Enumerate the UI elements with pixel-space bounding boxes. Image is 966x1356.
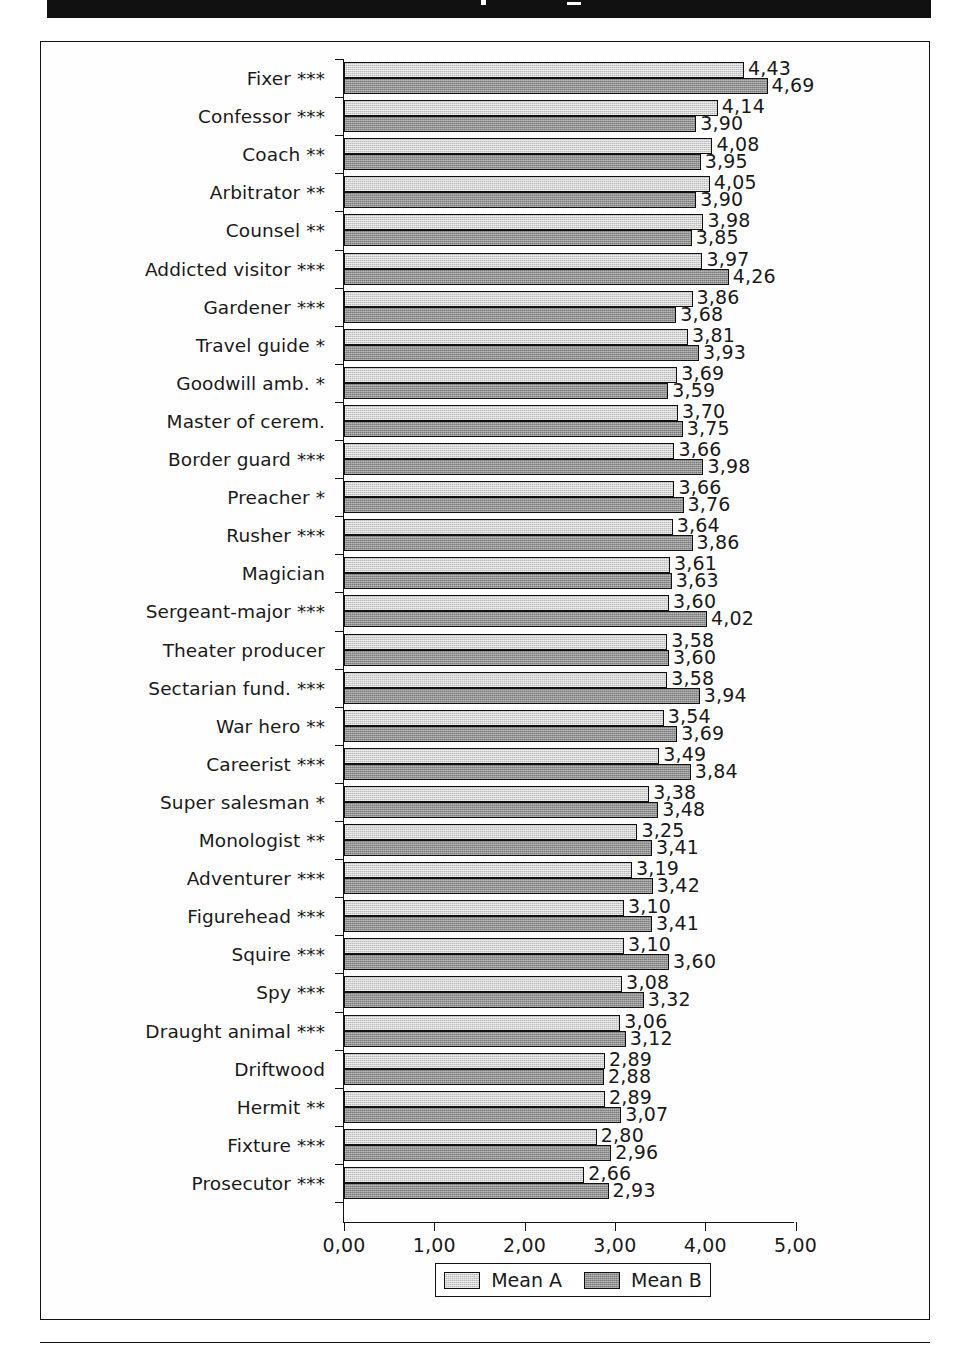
- bar-row: Addicted visitor ***3,974,26: [41, 252, 931, 290]
- category-label: Border guard ***: [35, 449, 325, 470]
- dark-gray-swatch-icon: [584, 1272, 620, 1289]
- x-axis-tick-label: 2,00: [485, 1234, 565, 1256]
- bar-mean-b: [344, 459, 703, 475]
- category-label: Spy ***: [35, 982, 325, 1003]
- bar-row: Arbitrator **4,053,90: [41, 175, 931, 213]
- bar-mean-a: [344, 253, 702, 269]
- bar-value-label: 3,59: [672, 379, 715, 401]
- category-label: Coach **: [35, 144, 325, 165]
- category-label: Preacher *: [35, 487, 325, 508]
- bar-row: Travel guide *3,813,93: [41, 328, 931, 366]
- category-label: Magician: [35, 563, 325, 584]
- bar-value-label: 3,42: [657, 874, 700, 896]
- bar-row: Border guard ***3,663,98: [41, 442, 931, 480]
- bar-value-label: 3,95: [705, 150, 748, 172]
- bar-value-label: 2,93: [613, 1179, 656, 1201]
- bar-mean-b: [344, 154, 701, 170]
- bar-row: Theater producer3,583,60: [41, 633, 931, 671]
- bar-value-label: 3,75: [687, 417, 730, 439]
- bar-value-label: 3,94: [704, 684, 747, 706]
- bar-value-label: 4,26: [733, 265, 776, 287]
- category-label: Goodwill amb. *: [35, 373, 325, 394]
- bar-mean-a: [344, 329, 688, 345]
- category-label: Fixture ***: [35, 1135, 325, 1156]
- bar-mean-b: [344, 78, 768, 94]
- bar-mean-a: [344, 976, 622, 992]
- bar-value-label: 3,60: [673, 590, 716, 612]
- bar-row: Confessor ***4,143,90: [41, 99, 931, 137]
- x-axis-line: [343, 1222, 794, 1223]
- bar-value-label: 3,60: [673, 646, 716, 668]
- bar-mean-b: [344, 497, 684, 513]
- bar-row: Prosecutor ***2,662,93: [41, 1166, 931, 1204]
- bar-row: Squire ***3,103,60: [41, 937, 931, 975]
- bar-row: Driftwood2,892,88: [41, 1052, 931, 1090]
- legend-entry-mean-b: Mean B: [584, 1269, 702, 1291]
- bar-value-label: 3,93: [703, 341, 746, 363]
- bar-value-label: 3,60: [673, 950, 716, 972]
- category-label: Super salesman *: [35, 792, 325, 813]
- bar-row: Sectarian fund. ***3,583,94: [41, 671, 931, 709]
- category-label: Theater producer: [35, 640, 325, 661]
- bar-row: Fixture ***2,802,96: [41, 1128, 931, 1166]
- legend-label-mean-a: Mean A: [491, 1269, 562, 1291]
- bar-row: Super salesman *3,383,48: [41, 785, 931, 823]
- bar-mean-b: [344, 650, 669, 666]
- bar-row: Monologist **3,253,41: [41, 823, 931, 861]
- bar-value-label: 3,41: [656, 912, 699, 934]
- category-label: Draught animal ***: [35, 1021, 325, 1042]
- bar-mean-b: [344, 802, 658, 818]
- bar-mean-a: [344, 405, 678, 421]
- bar-value-label: 2,88: [608, 1065, 651, 1087]
- bar-mean-b: [344, 840, 652, 856]
- bar-mean-b: [344, 421, 683, 437]
- bar-row: Hermit **2,893,07: [41, 1090, 931, 1128]
- category-label: Monologist **: [35, 830, 325, 851]
- bar-row: Coach **4,083,95: [41, 137, 931, 175]
- bar-row: Figurehead ***3,103,41: [41, 899, 931, 937]
- bar-mean-a: [344, 710, 664, 726]
- bar-mean-a: [344, 1015, 620, 1031]
- bar-row: Magician3,613,63: [41, 556, 931, 594]
- bar-value-label: 3,76: [688, 493, 731, 515]
- bar-row: Counsel **3,983,85: [41, 213, 931, 251]
- bar-chart-plot-area: 0,001,002,003,004,005,00 Fixer ***4,434,…: [41, 42, 931, 1321]
- x-axis-tick: [615, 1222, 616, 1231]
- bar-value-label: 3,10: [628, 933, 671, 955]
- bar-mean-b: [344, 345, 699, 361]
- bar-value-label: 3,63: [676, 569, 719, 591]
- category-label: Sergeant-major ***: [35, 601, 325, 622]
- bar-mean-b: [344, 1031, 626, 1047]
- bar-row: Sergeant-major ***3,604,02: [41, 594, 931, 632]
- scan-artifact-banner: [47, 0, 931, 18]
- x-axis-tick: [434, 1222, 435, 1231]
- bar-mean-a: [344, 291, 693, 307]
- bar-value-label: 3,86: [697, 531, 740, 553]
- bar-value-label: 4,69: [772, 74, 815, 96]
- bar-row: Preacher *3,663,76: [41, 480, 931, 518]
- bar-mean-a: [344, 862, 632, 878]
- bar-mean-a: [344, 367, 677, 383]
- category-label: Gardener ***: [35, 297, 325, 318]
- bar-mean-b: [344, 116, 696, 132]
- category-label: Careerist ***: [35, 754, 325, 775]
- bar-mean-b: [344, 764, 691, 780]
- chart-legend: Mean A Mean B: [435, 1263, 711, 1297]
- bar-mean-a: [344, 634, 667, 650]
- bar-mean-a: [344, 748, 659, 764]
- bar-mean-a: [344, 481, 674, 497]
- bar-mean-a: [344, 1053, 605, 1069]
- bar-mean-b: [344, 1069, 604, 1085]
- bar-mean-a: [344, 214, 703, 230]
- bar-value-label: 3,84: [695, 760, 738, 782]
- bar-row: Draught animal ***3,063,12: [41, 1014, 931, 1052]
- bar-value-label: 3,68: [680, 303, 723, 325]
- x-axis-tick-label: 1,00: [394, 1234, 474, 1256]
- category-label: Fixer ***: [35, 68, 325, 89]
- bar-value-label: 4,02: [711, 607, 754, 629]
- bar-row: Spy ***3,083,32: [41, 975, 931, 1013]
- y-axis-tick: [335, 59, 344, 60]
- category-label: Squire ***: [35, 944, 325, 965]
- bar-value-label: 2,96: [615, 1141, 658, 1163]
- bar-value-label: 3,12: [630, 1027, 673, 1049]
